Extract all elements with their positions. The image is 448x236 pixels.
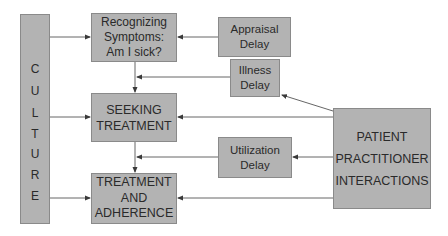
box-text-line: Am I sick? — [106, 45, 161, 60]
box-text-line: Delay — [240, 158, 269, 173]
box-text-line: TREATMENT — [96, 175, 171, 191]
arrow-patient-to-illness — [282, 95, 333, 111]
box-text-line: PATIENT — [357, 126, 408, 148]
box-text-line: Utilization — [230, 143, 280, 158]
box-text-line: Recognizing — [101, 15, 167, 30]
recognizing-symptoms-box: Recognizing Symptoms: Am I sick? — [91, 13, 177, 62]
box-text-line: Symptoms: — [104, 30, 164, 45]
culture-label: C U L T U R E — [21, 15, 49, 223]
culture-letter: R — [21, 169, 49, 181]
culture-letter: C — [21, 63, 49, 75]
illness-delay-box: Illness Delay — [230, 59, 280, 97]
culture-letter: E — [21, 190, 49, 202]
seeking-treatment-box: SEEKING TREATMENT — [91, 93, 177, 142]
box-text-line: SEEKING — [106, 102, 162, 118]
patient-practitioner-interactions-box: PATIENT PRACTITIONER INTERACTIONS — [333, 108, 431, 209]
box-text-line: TREATMENT — [96, 118, 171, 134]
culture-letter: L — [21, 107, 49, 119]
box-text-line: Delay — [240, 37, 269, 52]
box-text-line: ADHERENCE — [95, 206, 174, 222]
treatment-adherence-box: TREATMENT AND ADHERENCE — [91, 173, 177, 224]
box-text-line: Delay — [240, 78, 269, 93]
box-text-line: PRACTITIONER — [335, 148, 428, 170]
culture-letter: T — [21, 128, 49, 140]
utilization-delay-box: Utilization Delay — [218, 137, 292, 178]
box-text-line: Appraisal — [231, 22, 279, 37]
box-text-line: AND — [121, 191, 147, 207]
culture-box: C U L T U R E — [20, 14, 50, 224]
box-text-line: Illness — [239, 63, 272, 78]
appraisal-delay-box: Appraisal Delay — [218, 17, 291, 57]
culture-letter: U — [21, 148, 49, 160]
culture-letter: U — [21, 85, 49, 97]
box-text-line: INTERACTIONS — [335, 170, 428, 192]
